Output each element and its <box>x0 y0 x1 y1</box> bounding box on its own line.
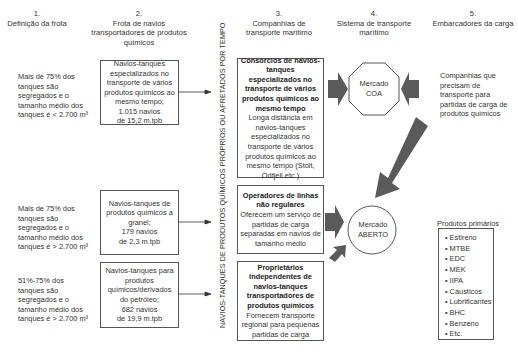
arrow-shippers-to-coa <box>401 72 419 106</box>
product-item: Lubrificantes <box>445 297 493 308</box>
product-item: Benzeno <box>445 319 493 330</box>
product-item: Cáusticos <box>445 287 493 298</box>
product-item: MTBE <box>445 244 493 255</box>
market-coa-line1: Mercado <box>349 79 399 89</box>
market-open-line2: ABERTO <box>348 230 398 240</box>
arrow-independent-to-open <box>329 245 346 262</box>
products-list: Estireno MTBE EDC MEK IIPA Cáusticos Lub… <box>439 229 493 340</box>
products-box: Estireno MTBE EDC MEK IIPA Cáusticos Lub… <box>438 228 494 340</box>
product-item: IIPA <box>445 276 493 287</box>
product-item: BHC <box>445 308 493 319</box>
shippers-description: Companhias que precisam de transporte pa… <box>440 71 514 119</box>
arrow-consortia-to-coa <box>328 72 348 106</box>
market-coa-label: Mercado COA <box>349 79 399 98</box>
arrow-tramp-to-open <box>325 205 344 239</box>
product-item: Etc. <box>445 329 493 340</box>
product-item: Estireno <box>445 233 493 244</box>
market-open-line1: Mercado <box>348 220 398 230</box>
market-coa-line2: COA <box>349 89 399 99</box>
product-item: EDC <box>445 254 493 265</box>
product-item: MEK <box>445 265 493 276</box>
market-open-label: Mercado ABERTO <box>348 220 398 239</box>
arrow-shippers-to-open <box>375 117 428 198</box>
connector-arrows <box>179 90 211 296</box>
